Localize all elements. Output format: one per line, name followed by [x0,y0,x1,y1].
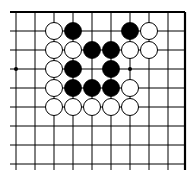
black-stone [84,80,101,97]
white-stone [46,23,63,40]
black-stone [84,42,101,59]
black-stone [65,80,82,97]
black-stone [122,23,139,40]
white-stone [122,80,139,97]
white-stone [103,99,120,116]
black-stone [65,23,82,40]
black-stone [65,61,82,78]
white-stone [46,61,63,78]
star-point [128,67,132,71]
black-stone [103,80,120,97]
white-stone [141,23,158,40]
white-stone [65,99,82,116]
white-stone [84,99,101,116]
white-stone [122,99,139,116]
white-stone [141,42,158,59]
star-point [14,67,18,71]
white-stone [65,42,82,59]
white-stone [46,80,63,97]
white-stone [122,42,139,59]
white-stone [46,99,63,116]
go-board-diagram [0,0,194,180]
white-stone [46,42,63,59]
black-stone [103,61,120,78]
black-stone [103,42,120,59]
